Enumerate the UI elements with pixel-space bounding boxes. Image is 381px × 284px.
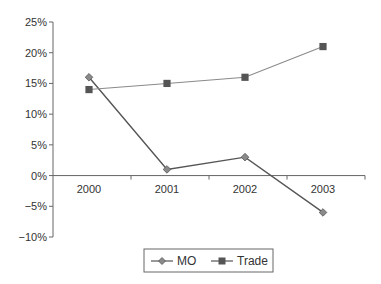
- square-marker-icon: [219, 258, 226, 265]
- series-mo: [85, 73, 327, 216]
- x-tick-label: 2003: [311, 183, 335, 195]
- y-tick-label: 0%: [31, 170, 47, 182]
- x-tick-label: 2001: [155, 183, 179, 195]
- y-tick-label: −5%: [25, 200, 48, 212]
- square-marker-icon: [241, 74, 248, 81]
- series-line: [89, 77, 323, 212]
- x-axis: 2000200120022003: [53, 176, 365, 195]
- legend-label-mo: MO: [177, 254, 196, 268]
- series-layer: [85, 43, 327, 216]
- series-trade: [85, 43, 326, 93]
- legend-label-trade: Trade: [237, 254, 268, 268]
- legend: MO Trade: [144, 249, 273, 272]
- y-tick-label: −10%: [19, 231, 48, 243]
- y-tick-label: 20%: [25, 47, 47, 59]
- y-tick-label: 25%: [25, 16, 47, 28]
- x-tick-label: 2000: [77, 183, 101, 195]
- x-tick-label: 2002: [233, 183, 257, 195]
- square-marker-icon: [85, 86, 92, 93]
- y-tick-label: 15%: [25, 77, 47, 89]
- series-line: [89, 47, 323, 90]
- y-tick-label: 10%: [25, 108, 47, 120]
- line-chart: 25%20%15%10%5%0%−5%−10% 2000200120022003…: [0, 0, 381, 284]
- square-marker-icon: [163, 80, 170, 87]
- square-marker-icon: [319, 43, 326, 50]
- y-tick-label: 5%: [31, 139, 47, 151]
- y-axis: 25%20%15%10%5%0%−5%−10%: [19, 16, 53, 243]
